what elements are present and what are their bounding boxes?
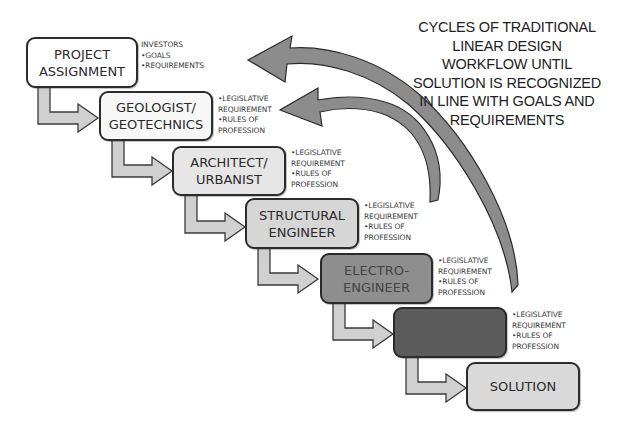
note-item: •LEGISLATIVE: [218, 94, 272, 105]
note-item: •LEGISLATIVE: [438, 256, 492, 267]
note-item: •LEGISLATIVE: [291, 148, 345, 159]
note-item: PROFESSION: [364, 233, 418, 244]
step-geologist-geotechnics: GEOLOGIST/ GEOTECHNICS: [99, 91, 213, 141]
connector-arrow-4: [256, 247, 326, 297]
note-item: REQUIREMENT: [291, 159, 345, 170]
note-item: REQUIREMENT: [512, 321, 566, 332]
note-item: •LEGISLATIVE: [364, 201, 418, 212]
notes-electro-engineer: •LEGISLATIVE REQUIREMENT •RULES OF PROFE…: [438, 256, 492, 298]
connector-arrow-2: [110, 139, 180, 189]
note-item: •LEGISLATIVE: [512, 310, 566, 321]
note-item: PROFESSION: [218, 126, 272, 137]
note-item: •RULES OF: [291, 169, 345, 180]
notes-architect-urbanist: •LEGISLATIVE REQUIREMENT •RULES OF PROFE…: [291, 148, 345, 190]
connector-arrow-3: [183, 195, 253, 245]
note-item: •RULES OF: [512, 331, 566, 342]
note-item: •RULES OF: [218, 115, 272, 126]
note-item: PROFESSION: [512, 342, 566, 353]
notes-project-assignment: INVESTORS •GOALS •REQUIREMENTS: [141, 40, 204, 72]
note-item: REQUIREMENT: [438, 267, 492, 278]
step-solution: SOLUTION: [466, 362, 580, 411]
title-line: LINEAR DESIGN: [402, 37, 612, 56]
note-item: •GOALS: [141, 51, 204, 62]
notes-unlabeled-dark: •LEGISLATIVE REQUIREMENT •RULES OF PROFE…: [512, 310, 566, 352]
step-structural-engineer: STRUCTURAL ENGINEER: [245, 198, 359, 249]
connector-arrow-6: [404, 356, 474, 406]
connector-arrow-5: [331, 302, 401, 352]
note-item: INVESTORS: [141, 40, 204, 51]
note-item: •RULES OF: [438, 277, 492, 288]
title-line: IN LINE WITH GOALS AND: [402, 92, 612, 111]
note-item: REQUIREMENT: [364, 212, 418, 223]
step-architect-urbanist: ARCHITECT/ URBANIST: [172, 146, 286, 196]
note-item: PROFESSION: [291, 180, 345, 191]
cycles-title: CYCLES OF TRADITIONAL LINEAR DESIGN WORK…: [402, 18, 612, 129]
step-unlabeled-dark: [393, 307, 507, 358]
note-item: REQUIREMENT: [218, 105, 272, 116]
note-item: •REQUIREMENTS: [141, 61, 204, 72]
step-electro-engineer: ELECTRO- ENGINEER: [320, 253, 433, 304]
connector-arrow-1: [36, 86, 106, 136]
title-line: WORKFLOW UNTIL: [402, 55, 612, 74]
note-item: PROFESSION: [438, 288, 492, 299]
title-line: CYCLES OF TRADITIONAL: [402, 18, 612, 37]
note-item: •RULES OF: [364, 222, 418, 233]
title-line: REQUIREMENTS: [402, 111, 612, 130]
title-line: SOLUTION IS RECOGNIZED: [402, 74, 612, 93]
step-project-assignment: PROJECT ASSIGNMENT: [26, 37, 138, 88]
notes-geologist-geotechnics: •LEGISLATIVE REQUIREMENT •RULES OF PROFE…: [218, 94, 272, 136]
notes-structural-engineer: •LEGISLATIVE REQUIREMENT •RULES OF PROFE…: [364, 201, 418, 243]
